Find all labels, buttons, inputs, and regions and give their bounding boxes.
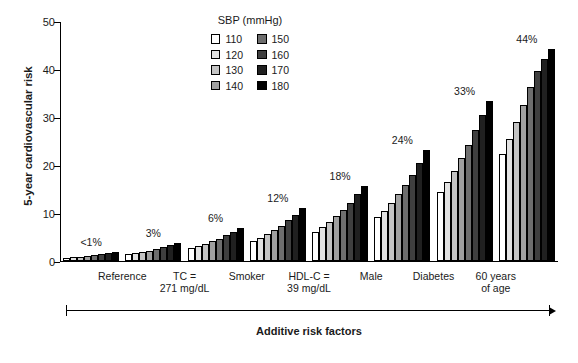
legend-item: 130	[211, 64, 243, 76]
legend-item: 110	[211, 33, 243, 45]
legend-label: 160	[272, 49, 290, 61]
bar	[548, 49, 555, 260]
bar	[486, 101, 493, 260]
bar	[112, 252, 119, 261]
peak-value-label: 44%	[516, 33, 537, 45]
bar	[326, 222, 333, 260]
bar	[520, 105, 527, 261]
legend-item: 170	[257, 64, 289, 76]
legend-item: 180	[257, 80, 289, 92]
peak-value-label: 12%	[267, 192, 288, 204]
legend-column-right: 150160170180	[257, 33, 289, 92]
annotation-arrow	[60, 305, 558, 317]
bar	[451, 171, 458, 261]
y-tick-label: 40	[43, 64, 55, 76]
legend-swatch-icon	[211, 50, 221, 60]
legend-swatch-icon	[257, 65, 267, 75]
peak-value-label: 24%	[392, 134, 413, 146]
x-category-label: Reference	[98, 270, 146, 282]
legend-swatch-icon	[211, 65, 221, 75]
bar	[479, 115, 486, 260]
bar	[174, 243, 181, 260]
bar	[292, 215, 299, 261]
bar	[541, 59, 548, 261]
legend-item: 150	[257, 33, 289, 45]
peak-value-label: <1%	[80, 236, 101, 248]
bar	[395, 194, 402, 260]
bar	[333, 216, 340, 260]
y-tick-label: 30	[43, 112, 55, 124]
bar	[223, 235, 230, 260]
x-category-label: HDL-C = 39 mg/dL	[287, 270, 331, 294]
bar	[361, 186, 368, 261]
legend-swatch-icon	[211, 81, 221, 91]
bar	[312, 232, 319, 261]
bar	[188, 248, 195, 260]
bar-group: 18%HDL-C = 39 mg/dL	[309, 22, 371, 261]
legend-label: 110	[225, 33, 242, 45]
bar	[409, 175, 416, 261]
peak-value-label: 3%	[146, 227, 161, 239]
bar	[499, 154, 506, 261]
x-category-label: 60 years of age	[476, 270, 516, 294]
bar	[285, 220, 292, 260]
legend-item: 160	[257, 49, 289, 61]
legend-swatch-icon	[257, 81, 267, 91]
bar	[139, 252, 146, 261]
legend-swatch-icon	[211, 34, 221, 44]
bar	[506, 139, 513, 261]
bar	[257, 238, 264, 261]
y-tick-label: 20	[43, 160, 55, 172]
legend-swatch-icon	[257, 50, 267, 60]
bar	[153, 249, 160, 261]
legend: SBP (mmHg) 110120130140 150160170180	[190, 14, 310, 92]
legend-title: SBP (mmHg)	[190, 14, 310, 26]
legend-columns: 110120130140 150160170180	[190, 33, 310, 92]
x-category-label: Smoker	[229, 270, 265, 282]
bar	[264, 234, 271, 260]
bar	[105, 253, 112, 260]
bar	[230, 232, 237, 261]
legend-label: 130	[225, 64, 243, 76]
chart-figure: 5-year cardiovascular risk 01020304050 <…	[0, 0, 578, 363]
y-tick-label: 10	[43, 208, 55, 220]
y-axis-title: 5-year cardiovascular risk	[22, 31, 34, 241]
additive-risk-annotation: Additive risk factors	[60, 305, 558, 337]
x-axis-line	[60, 261, 558, 262]
bar	[437, 192, 444, 261]
bar-group: 33%Diabetes	[434, 22, 496, 261]
bar	[70, 257, 77, 260]
bar-group: 24%Male	[371, 22, 433, 261]
bar	[77, 257, 84, 261]
bar	[416, 163, 423, 260]
y-tick-label: 0	[49, 256, 55, 268]
bar	[132, 253, 139, 260]
legend-label: 140	[225, 80, 243, 92]
bar	[209, 241, 216, 260]
bar	[278, 226, 285, 261]
bar	[534, 71, 541, 261]
bar	[167, 245, 174, 260]
bar-group: <1%	[60, 22, 122, 261]
bar	[146, 251, 153, 261]
legend-label: 150	[272, 33, 290, 45]
bar	[347, 203, 354, 261]
legend-column-left: 110120130140	[211, 33, 243, 92]
legend-swatch-icon	[257, 34, 267, 44]
bar	[444, 182, 451, 261]
legend-label: 120	[225, 49, 243, 61]
bar	[91, 255, 98, 260]
bar	[388, 203, 395, 261]
bar	[271, 230, 278, 261]
bar	[216, 239, 223, 261]
bar	[237, 228, 244, 261]
bar	[527, 87, 534, 261]
bar	[423, 150, 430, 260]
bar	[354, 194, 361, 260]
peak-value-label: 18%	[330, 170, 351, 182]
bar	[465, 145, 472, 261]
arrow-head-icon	[549, 307, 556, 315]
bar	[513, 122, 520, 260]
legend-item: 120	[211, 49, 243, 61]
bar	[125, 254, 132, 260]
